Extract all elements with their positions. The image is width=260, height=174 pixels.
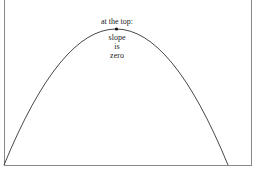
annotation-zero: zero <box>100 51 134 60</box>
peak-point <box>115 27 118 30</box>
annotation-slope: slope <box>100 33 134 42</box>
annotation-at-the-top: at the top: <box>90 17 144 26</box>
parabola-diagram <box>0 0 260 174</box>
annotation-is: is <box>100 42 134 51</box>
